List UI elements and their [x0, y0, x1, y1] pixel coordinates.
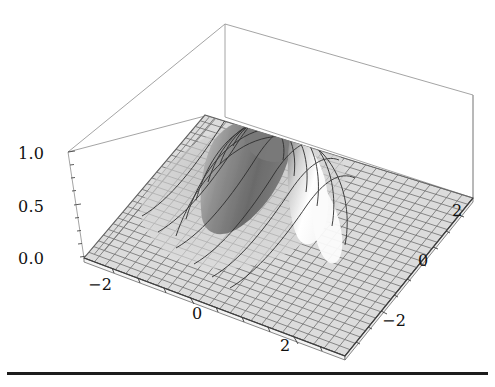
z-tick-label-2: 0.5 [18, 199, 44, 215]
bottom-divider-rule [7, 372, 488, 375]
z-tick-label-3: 0.0 [18, 251, 44, 267]
x-tick-label-3: 2 [280, 338, 290, 354]
z-tick-label-1: 1.0 [18, 146, 44, 162]
z-axis-ticks [68, 151, 87, 257]
y-tick-label-3: −2 [382, 313, 406, 329]
figure-root: 1.0 0.5 0.0 −2 0 2 2 0 −2 [0, 0, 495, 387]
x-tick-label-2: 0 [192, 306, 202, 322]
y-tick-label-2: 0 [418, 253, 428, 269]
surface-plot-canvas [0, 0, 495, 387]
x-tick-label-1: −2 [88, 277, 112, 293]
y-tick-label-1: 2 [452, 203, 462, 219]
